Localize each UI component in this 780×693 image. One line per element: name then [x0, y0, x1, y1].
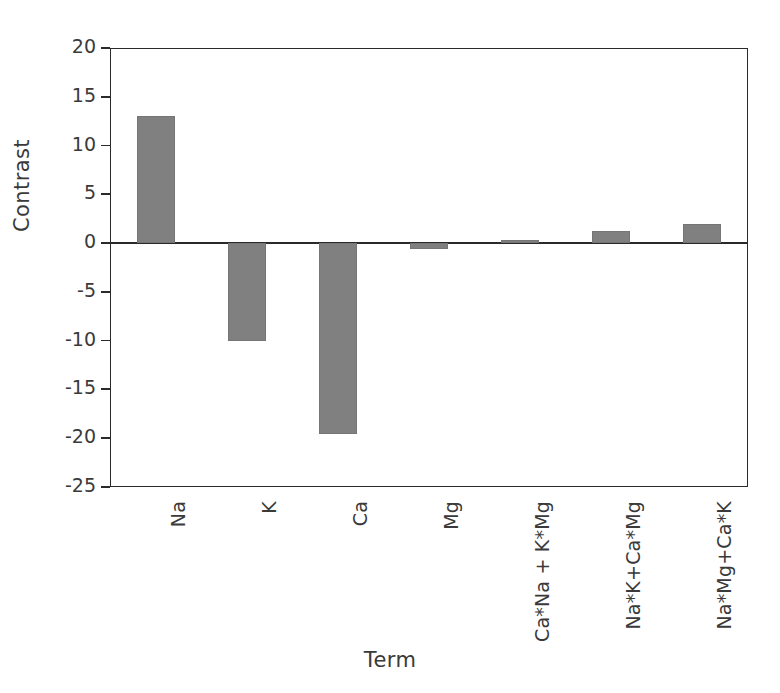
y-tick-label: 10 — [72, 133, 96, 155]
y-tick-mark — [101, 193, 110, 195]
bar — [592, 231, 630, 243]
y-tick-mark — [101, 96, 110, 98]
y-tick-mark — [101, 437, 110, 439]
y-tick-mark — [101, 47, 110, 49]
x-tick-label: Ca — [349, 501, 371, 526]
y-tick-label: 0 — [84, 230, 96, 252]
y-tick-mark — [101, 145, 110, 147]
y-tick-label: -25 — [65, 474, 96, 496]
bar — [501, 240, 539, 243]
y-tick-label: 5 — [84, 181, 96, 203]
x-tick-label: Ca*Na + K*Mg — [531, 501, 553, 642]
bar — [410, 243, 448, 249]
y-tick-label: 15 — [72, 84, 96, 106]
y-tick-mark — [101, 291, 110, 293]
y-tick-mark — [101, 486, 110, 488]
bar-chart: Contrast 20151050-5-10-15-20-25 NaKCaMgC… — [0, 0, 780, 693]
y-tick-label: -5 — [77, 279, 96, 301]
y-tick-mark — [101, 388, 110, 390]
bar — [319, 243, 357, 434]
bar — [683, 224, 721, 244]
y-tick-label: -10 — [65, 328, 96, 350]
x-tick-label: Na — [167, 501, 189, 527]
x-tick-label: Na*Mg+Ca*K — [713, 501, 735, 630]
bar — [228, 243, 266, 341]
x-tick-label: Mg — [440, 501, 462, 530]
y-axis-title: Contrast — [0, 62, 44, 232]
x-tick-label: K — [258, 501, 280, 514]
y-tick-label: 20 — [72, 35, 96, 57]
x-tick-label: Na*K+Ca*Mg — [622, 501, 644, 630]
plot-area — [110, 48, 748, 487]
y-tick-label: -20 — [65, 425, 96, 447]
y-tick-mark — [101, 340, 110, 342]
x-axis-title: Term — [0, 648, 780, 672]
y-tick-label: -15 — [65, 376, 96, 398]
bar — [137, 116, 175, 243]
y-tick-mark — [101, 242, 110, 244]
